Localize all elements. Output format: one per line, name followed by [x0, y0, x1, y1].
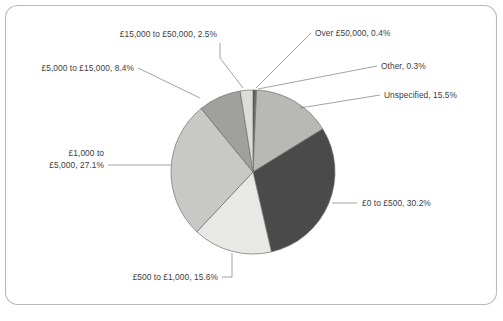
pie-label-1000-to-5000-line1: £1,000 to: [69, 148, 105, 158]
leader-line-over-50000: [256, 33, 311, 88]
pie-slices-group: [171, 90, 335, 254]
pie-label-unspecified: Unspecified, 15.5%: [384, 90, 458, 100]
pie-label-0-to-500: £0 to £500, 30.2%: [362, 198, 431, 208]
pie-label-500-to-1000: £500 to £1,000, 15.6%: [133, 272, 219, 282]
leader-line-500-to-1000: [222, 253, 232, 277]
pie-chart-figure: £15,000 to £50,000, 2.5% Over £50,000, 0…: [0, 0, 503, 321]
pie-label-15000-to-50000: £15,000 to £50,000, 2.5%: [120, 29, 218, 39]
pie-label-over-50000: Over £50,000, 0.4%: [315, 28, 391, 38]
leader-line-15000-to-50000: [220, 43, 243, 88]
pie-label-other: Other, 0.3%: [381, 61, 426, 71]
leader-line-unspecified: [300, 95, 380, 108]
pie-label-1000-to-5000-line2: £5,000, 27.1%: [49, 160, 104, 170]
pie-label-5000-to-15000: £5,000 to £15,000, 8.4%: [42, 63, 135, 73]
leader-line-other: [258, 66, 377, 89]
leader-line-5000-to-15000: [138, 68, 200, 98]
chart-canvas: £15,000 to £50,000, 2.5% Over £50,000, 0…: [0, 0, 503, 321]
